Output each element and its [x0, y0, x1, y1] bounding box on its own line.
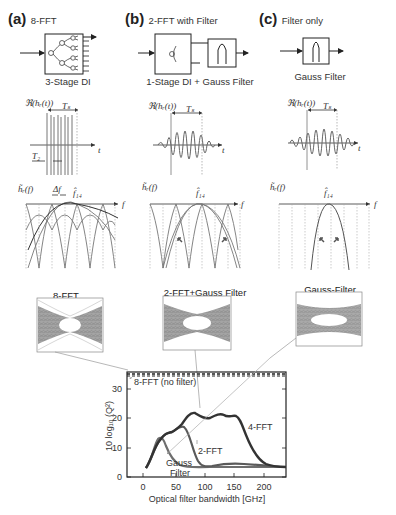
label-8fft-no-filter: 8-FFT (no filter)	[134, 377, 196, 387]
label-gauss: Gauss	[166, 458, 193, 468]
y-ticks	[127, 389, 286, 477]
x-axis-label: Optical filter bandwidth [GHz]	[149, 494, 266, 504]
y-axis-label: 10 log₁₀ (Q²)	[104, 401, 114, 451]
xtick-200: 200	[256, 482, 271, 492]
x-ticks	[143, 473, 264, 477]
ytick-30: 30	[112, 384, 122, 394]
xtick-0: 0	[140, 482, 145, 492]
xtick-100: 100	[197, 482, 212, 492]
ytick-0: 0	[117, 472, 122, 482]
label-filter: Filter	[170, 468, 190, 478]
label-4fft: 4-FFT	[248, 422, 273, 432]
q-factor-chart: 0 10 20 30 0 50 100 150 200 Optical filt…	[0, 0, 396, 515]
xtick-50: 50	[171, 482, 181, 492]
xtick-150: 150	[226, 482, 241, 492]
label-2fft: 2-FFT	[198, 446, 223, 456]
